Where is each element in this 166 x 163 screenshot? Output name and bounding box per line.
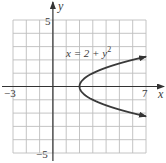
- parabola-curve-upper: [80, 57, 147, 87]
- x-min-tick-label: −3: [4, 87, 16, 99]
- parabola-chart: y x 5 −5 −3 7 x = 2 + y2: [0, 0, 166, 163]
- x-axis-label: x: [157, 87, 164, 101]
- y-min-tick-label: −5: [36, 148, 48, 160]
- equation-label: x = 2 + y2: [65, 45, 111, 59]
- equation-text: x = 2 + y: [65, 47, 107, 59]
- x-max-tick-label: 7: [142, 87, 148, 99]
- parabola-curve-lower: [80, 87, 147, 117]
- y-axis-label: y: [57, 0, 64, 13]
- y-max-tick-label: 5: [45, 15, 51, 27]
- equation-exponent: 2: [107, 45, 111, 54]
